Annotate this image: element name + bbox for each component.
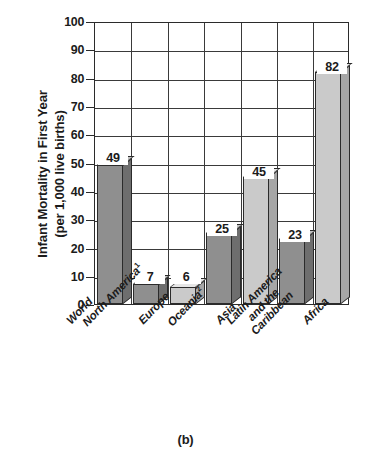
bar-value-oceania: 25 <box>207 223 237 236</box>
y-tick-dash-40 <box>86 192 94 193</box>
y-tick-dash-50 <box>86 164 94 165</box>
bar-chart-figure: Infant Mortality in First Year (per 1,00… <box>0 0 371 469</box>
gridline-col-2 <box>168 23 169 304</box>
bar-value-europe: 6 <box>171 271 201 284</box>
y-tick-50: 50 <box>50 158 84 170</box>
y-tick-dash-90 <box>86 50 94 51</box>
gridline-40 <box>95 193 348 194</box>
y-tick-dash-60 <box>86 135 94 136</box>
gridline-col-3 <box>204 23 205 304</box>
y-tick-20: 20 <box>50 243 84 255</box>
bar-africa-front <box>315 72 341 304</box>
y-tick-80: 80 <box>50 73 84 85</box>
gridline-90 <box>95 51 348 52</box>
y-tick-dash-30 <box>86 220 94 221</box>
y-tick-dash-80 <box>86 79 94 80</box>
gridline-50 <box>95 165 348 166</box>
bar-value-africa: 82 <box>317 61 347 74</box>
y-tick-40: 40 <box>50 186 84 198</box>
y-tick-dash-70 <box>86 107 94 108</box>
y-tick-dash-100 <box>86 22 94 23</box>
bar-value-latin-america-caribbean: 23 <box>280 229 310 242</box>
y-axis-title-line-1: Infant Mortality in First Year <box>34 34 51 314</box>
gridline-60 <box>95 136 348 137</box>
y-axis-tick-labels: 100 90 80 70 60 50 40 30 20 10 0 <box>50 0 84 469</box>
y-tick-10: 10 <box>50 271 84 283</box>
bar-africa[interactable] <box>315 72 341 304</box>
bar-oceania[interactable] <box>206 233 232 304</box>
bar-latin-america-caribbean-side <box>305 232 314 304</box>
y-tick-90: 90 <box>50 44 84 56</box>
bar-africa-side <box>341 65 350 304</box>
gridline-80 <box>95 80 348 81</box>
bar-value-world: 49 <box>98 152 128 165</box>
bar-oceania-front <box>206 233 232 304</box>
y-tick-dash-20 <box>86 249 94 250</box>
y-tick-60: 60 <box>50 129 84 141</box>
y-tick-dash-10 <box>86 277 94 278</box>
figure-caption: (b) <box>0 432 371 447</box>
bar-value-asia: 45 <box>244 166 274 179</box>
bar-oceania-side <box>232 226 241 304</box>
y-tick-70: 70 <box>50 101 84 113</box>
y-tick-30: 30 <box>50 214 84 226</box>
y-tick-100: 100 <box>50 16 84 28</box>
gridline-70 <box>95 108 348 109</box>
